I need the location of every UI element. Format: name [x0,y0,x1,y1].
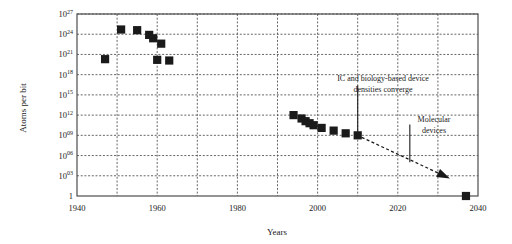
annotation-label: IC and biology-based device [337,74,429,83]
y-axis-tick-label: 1018 [59,69,74,79]
data-point-marker [289,111,297,119]
y-axis-tick-label: 1021 [59,49,74,59]
y-axis-tick-label: 1 [69,191,73,201]
y-axis-tick-labels: 1100310061009101210151018102110241027 [59,9,74,201]
x-axis-tick-label: 1980 [229,203,246,213]
data-point-marker [318,124,326,132]
x-axis-tick-label: 1960 [149,203,166,213]
data-point-marker [462,192,470,200]
data-point-marker [153,56,161,64]
annotation-label: Molecular [418,115,451,124]
data-point-marker [309,121,317,129]
x-axis-tick-label: 1940 [69,203,86,213]
x-axis-tick-label: 2000 [309,203,326,213]
data-point-marker [157,40,165,48]
data-point-marker [330,127,338,135]
y-axis-tick-label: 1006 [59,150,74,160]
chart-figure: 1100310061009101210151018102110241027 19… [0,0,512,244]
x-axis-title: Years [267,227,288,237]
data-point-marker [165,56,173,64]
x-axis-tick-labels: 194019601980200020202040 [69,203,487,213]
y-axis-tick-label: 1012 [59,110,74,120]
data-point-marker [354,131,362,139]
data-point-marker [117,25,125,33]
data-point-marker [342,129,350,137]
y-axis-tick-label: 1009 [59,130,74,140]
y-axis-tick-label: 1024 [59,29,74,39]
y-axis-tick-label: 1015 [59,89,74,99]
x-axis-tick-label: 2020 [389,203,406,213]
annotation-label: devices [422,126,446,135]
annotation-label: densities converge [353,85,413,94]
data-point-marker [149,34,157,42]
data-point-marker [133,26,141,34]
chart-canvas: 1100310061009101210151018102110241027 19… [0,0,512,244]
x-axis-tick-label: 2040 [470,203,487,213]
y-axis-tick-label: 1003 [59,170,74,180]
y-axis-tick-label: 1027 [59,9,74,19]
y-axis-title: Atoms per bit [18,83,28,133]
data-point-marker [101,55,109,63]
